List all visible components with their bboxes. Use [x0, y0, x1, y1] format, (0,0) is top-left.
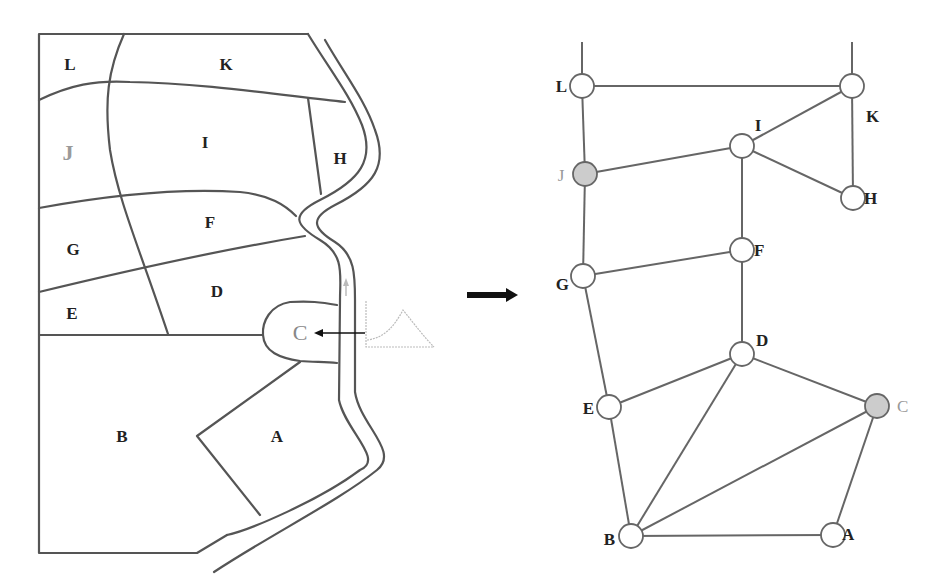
hydrograph-curve	[367, 310, 434, 347]
node-label-L: L	[556, 77, 567, 96]
edge-I-H	[742, 146, 853, 198]
edge-G-F	[583, 250, 742, 276]
node-label-H: H	[864, 189, 877, 208]
region-adjacency-figure: L K J I H G F D E C B A	[0, 0, 948, 586]
region-label-E: E	[66, 304, 77, 323]
boundary-I-H	[308, 98, 321, 194]
node-E	[597, 395, 621, 419]
edge-G-E	[583, 276, 609, 407]
river-bank-right	[214, 40, 384, 572]
edge-I-J	[585, 146, 742, 174]
edge-K-H	[852, 86, 853, 198]
region-label-J: J	[63, 140, 74, 165]
graph-nodes	[570, 74, 889, 548]
edge-D-B	[631, 354, 742, 536]
node-label-E: E	[583, 399, 594, 418]
node-label-B: B	[604, 530, 615, 549]
edge-L-J	[582, 86, 585, 174]
edge-J-G	[583, 174, 585, 276]
node-J	[573, 162, 597, 186]
region-label-D: D	[211, 282, 223, 301]
region-label-G: G	[66, 240, 79, 259]
region-label-C: C	[293, 320, 308, 345]
transform-arrow-icon	[467, 288, 518, 302]
node-I	[730, 134, 754, 158]
boundary-top-row	[39, 82, 345, 102]
node-label-D: D	[756, 331, 768, 350]
region-map: L K J I H G F D E C B A	[39, 34, 434, 572]
node-label-A: A	[842, 525, 855, 544]
adjacency-graph: L K I J H F G D E C B A	[556, 42, 909, 549]
node-K	[840, 74, 864, 98]
region-label-F: F	[205, 213, 215, 232]
boundary-J-G-I-F	[39, 191, 296, 216]
node-B	[619, 524, 643, 548]
node-C	[865, 394, 889, 418]
region-label-L: L	[64, 55, 75, 74]
node-label-I: I	[755, 116, 762, 135]
boundary-A	[197, 362, 300, 515]
node-F	[730, 238, 754, 262]
boundary-L-K-I	[107, 34, 168, 334]
node-label-C: C	[897, 397, 908, 416]
region-label-I: I	[202, 133, 209, 152]
map-outer-boundary	[39, 34, 308, 553]
node-label-G: G	[556, 275, 569, 294]
node-label-K: K	[866, 107, 880, 126]
hydrograph-axes	[366, 301, 434, 347]
edge-B-A	[631, 535, 833, 536]
node-label-F: F	[754, 241, 764, 260]
flow-arrowhead-icon	[343, 278, 349, 286]
region-label-A: A	[271, 427, 284, 446]
region-label-K: K	[219, 55, 233, 74]
region-label-B: B	[116, 427, 127, 446]
edge-E-B	[609, 407, 631, 536]
edge-D-E	[609, 354, 742, 407]
node-D	[730, 342, 754, 366]
node-L	[570, 74, 594, 98]
node-G	[571, 264, 595, 288]
node-H	[841, 186, 865, 210]
edge-D-C	[742, 354, 877, 406]
graph-edges	[582, 42, 877, 536]
region-label-H: H	[333, 149, 346, 168]
inflow-arrowhead-icon	[314, 329, 323, 337]
node-label-J: J	[558, 166, 565, 185]
